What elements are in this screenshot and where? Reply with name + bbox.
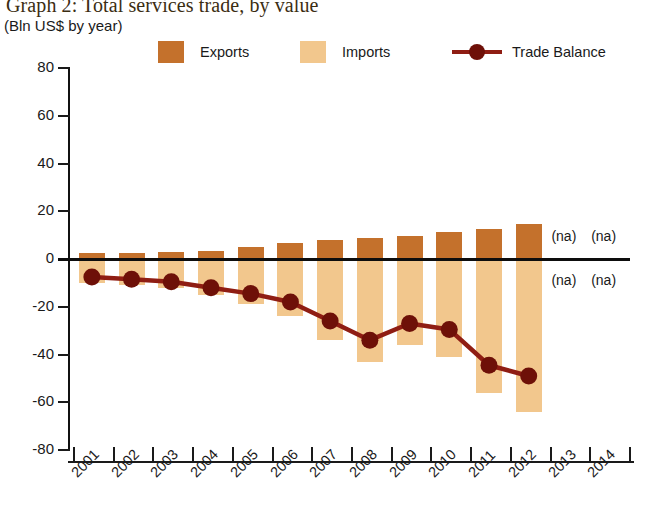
- y-axis-label-0: 0: [12, 249, 54, 266]
- x-tick-2013: [550, 447, 552, 461]
- x-tick-2001: [73, 447, 75, 461]
- x-tick-2003: [152, 447, 154, 461]
- bar-imports-2005[interactable]: [238, 259, 264, 304]
- y-axis-label-20: 20: [12, 201, 54, 218]
- y-tick--80: [58, 449, 70, 451]
- y-axis-label--80: -80: [12, 440, 54, 457]
- y-axis-label--20: -20: [12, 297, 54, 314]
- y-axis-label-60: 60: [12, 106, 54, 123]
- x-tick-2012: [510, 447, 512, 461]
- bar-imports-2012[interactable]: [516, 259, 542, 412]
- na-label-2014-below: (na): [591, 272, 616, 288]
- x-tick-2004: [192, 447, 194, 461]
- x-tick-2007: [311, 447, 313, 461]
- bar-imports-2001[interactable]: [79, 259, 105, 283]
- bar-exports-2012[interactable]: [516, 224, 542, 259]
- chart-root: Graph 2: Total services trade, by value …: [0, 0, 649, 517]
- y-tick-60: [58, 115, 70, 117]
- x-tick-2002: [113, 447, 115, 461]
- x-tick-2005: [232, 447, 234, 461]
- bar-exports-2011[interactable]: [476, 229, 502, 259]
- bar-exports-2009[interactable]: [397, 236, 423, 259]
- plot-area: 806040200-20-40-60-80(na)(na)(na)(na)200…: [0, 0, 649, 517]
- x-tick-end: [629, 447, 631, 461]
- y-tick--20: [58, 306, 70, 308]
- na-label-2014-above: (na): [591, 228, 616, 244]
- bar-imports-2010[interactable]: [436, 259, 462, 357]
- y-axis-label-80: 80: [12, 58, 54, 75]
- x-tick-2011: [470, 447, 472, 461]
- bar-imports-2011[interactable]: [476, 259, 502, 393]
- x-tick-2009: [391, 447, 393, 461]
- x-tick-2008: [351, 447, 353, 461]
- y-axis-label--60: -60: [12, 392, 54, 409]
- y-tick-20: [58, 210, 70, 212]
- y-axis-label-40: 40: [12, 154, 54, 171]
- bar-imports-2007[interactable]: [317, 259, 343, 340]
- zero-line: [58, 258, 630, 261]
- bar-imports-2004[interactable]: [198, 259, 224, 295]
- y-tick-40: [58, 163, 70, 165]
- na-label-2013-above: (na): [551, 228, 576, 244]
- bar-imports-2003[interactable]: [158, 259, 184, 288]
- y-tick--60: [58, 401, 70, 403]
- x-tick-2010: [430, 447, 432, 461]
- y-tick--40: [58, 354, 70, 356]
- bar-exports-2008[interactable]: [357, 238, 383, 259]
- y-axis-label--40: -40: [12, 345, 54, 362]
- bar-imports-2008[interactable]: [357, 259, 383, 362]
- bar-imports-2002[interactable]: [119, 259, 145, 285]
- bar-exports-2010[interactable]: [436, 232, 462, 259]
- x-tick-2006: [272, 447, 274, 461]
- bar-imports-2006[interactable]: [277, 259, 303, 316]
- x-tick-2014: [589, 447, 591, 461]
- bar-imports-2009[interactable]: [397, 259, 423, 345]
- bar-exports-2007[interactable]: [317, 240, 343, 259]
- na-label-2013-below: (na): [551, 272, 576, 288]
- y-tick-80: [58, 67, 70, 69]
